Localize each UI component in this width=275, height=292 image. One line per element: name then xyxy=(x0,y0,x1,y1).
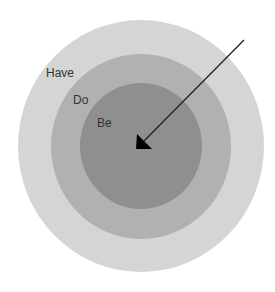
arrow-icon xyxy=(0,0,275,292)
